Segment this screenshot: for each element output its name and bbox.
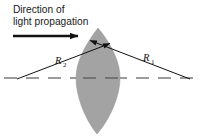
r1-label-subscript: 1 <box>151 58 155 66</box>
lens-radii-figure: Direction of light propagation R 2 R 1 <box>0 0 204 140</box>
r2-label-subscript: 2 <box>63 61 67 69</box>
caption-line-2: light propagation <box>13 16 88 27</box>
r2-label-symbol: R <box>54 55 62 66</box>
r1-label-symbol: R <box>142 52 150 63</box>
r2-label: R 2 <box>54 55 67 69</box>
r1-label: R 1 <box>142 52 155 66</box>
caption-line-1: Direction of <box>13 4 65 15</box>
diagram-canvas: Direction of light propagation R 2 R 1 <box>0 0 204 140</box>
